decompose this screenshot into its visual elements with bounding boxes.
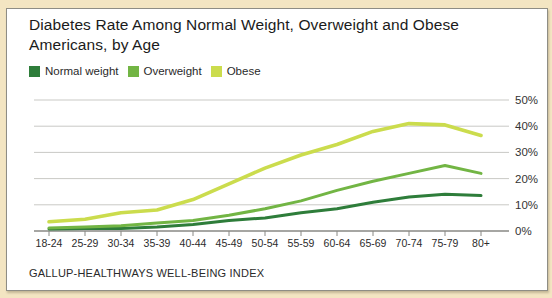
legend-item-overweight: Overweight: [128, 65, 202, 77]
x-tick-label: 18-24: [36, 237, 63, 249]
x-tick-label: 35-39: [144, 237, 171, 249]
chart-title: Diabetes Rate Among Normal Weight, Overw…: [29, 15, 499, 56]
x-tick-label: 45-49: [216, 237, 243, 249]
x-tick-label: 70-74: [396, 237, 423, 249]
x-tick-label: 80+: [472, 237, 490, 249]
legend-label: Obese: [227, 65, 261, 77]
legend-swatch-icon: [211, 66, 222, 77]
source-credit: GALLUP-HEALTHWAYS WELL-BEING INDEX: [29, 267, 264, 279]
legend-item-normal-weight: Normal weight: [29, 65, 119, 77]
y-tick-label: 20%: [515, 173, 538, 185]
legend-swatch-icon: [29, 66, 40, 77]
y-tick-label: 30%: [515, 146, 538, 158]
y-tick-label: 10%: [515, 199, 538, 211]
y-tick-label: 0%: [515, 225, 532, 237]
legend-label: Overweight: [144, 65, 202, 77]
x-tick-label: 75-79: [432, 237, 459, 249]
x-tick-label: 25-29: [72, 237, 99, 249]
series-line-normal-weight: [49, 194, 481, 229]
x-tick-label: 65-69: [360, 237, 387, 249]
screenshot-root: { "title": "Diabetes Rate Among Normal W…: [0, 0, 552, 298]
chart-svg: 0%10%20%30%40%50%18-2425-2930-3435-3940-…: [7, 95, 547, 257]
x-tick-label: 55-59: [288, 237, 315, 249]
legend-swatch-icon: [128, 66, 139, 77]
x-tick-label: 30-34: [108, 237, 135, 249]
legend: Normal weightOverweightObese: [29, 65, 261, 77]
y-tick-label: 50%: [515, 95, 538, 106]
legend-item-obese: Obese: [211, 65, 261, 77]
chart-card: Diabetes Rate Among Normal Weight, Overw…: [6, 8, 548, 291]
x-tick-label: 40-44: [180, 237, 207, 249]
chart-area: 0%10%20%30%40%50%18-2425-2930-3435-3940-…: [7, 95, 547, 257]
x-tick-label: 60-64: [324, 237, 351, 249]
x-tick-label: 50-54: [252, 237, 279, 249]
y-tick-label: 40%: [515, 120, 538, 132]
legend-label: Normal weight: [45, 65, 119, 77]
